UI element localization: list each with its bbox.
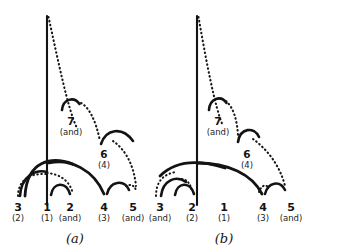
figure-canvas: 7 (and) 6 (4) 3 (2) 1 (1) 2 (and) 4 (3) … [0,0,337,252]
panel-b-beat-sub-5: (and) [280,213,303,223]
panel-a-upper-num-7: 7 [67,115,74,127]
panel-b-upper-num-6: 6 [243,148,250,160]
panel-b-beat-sub-1: (and) [149,213,172,223]
metrical-arc-figure: 7 (and) 6 (4) 3 (2) 1 (1) 2 (and) 4 (3) … [0,0,337,252]
panel-a-caption: (a) [66,231,84,246]
panel-a-beat-sub-1: (2) [12,213,24,223]
panel-b-beat-sub-4: (3) [257,213,269,223]
panel-a-beat-sub-2: (1) [41,213,53,223]
panel-a-upper-num-6: 6 [100,148,107,160]
panel-b-upper-sub-7: (and) [207,127,230,137]
panel-a-upper-sub-7: (and) [60,127,83,137]
panel-b-beat-sub-3: (1) [218,213,230,223]
panel-b-beat-sub-2: (2) [186,213,198,223]
panel-b-caption: (b) [215,231,233,246]
panel-b-upper-sub-6: (4) [241,160,253,170]
panel-b-upper-num-7: 7 [214,115,221,127]
panel-a-upper-sub-6: (4) [98,160,110,170]
panel-a-beat-sub-3: (and) [59,213,82,223]
panel-a-beat-sub-4: (3) [98,213,110,223]
panel-a-beat-sub-5: (and) [122,213,145,223]
